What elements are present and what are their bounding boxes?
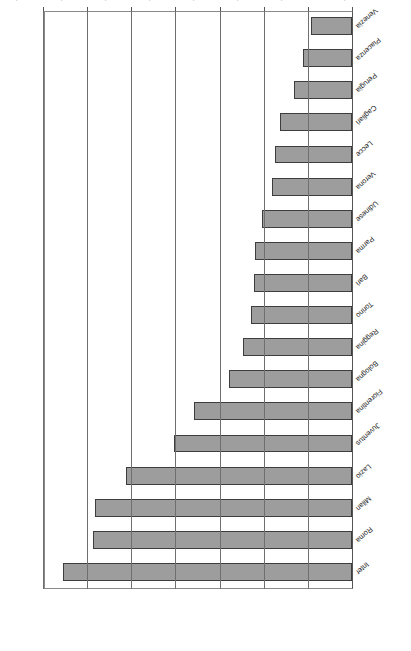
- gridline: [308, 11, 309, 589]
- value-tick-label: 50,000: [100, 0, 109, 1]
- value-tick-label: 10,000: [277, 0, 286, 1]
- value-tick-label: 40,000: [145, 0, 154, 1]
- bar-fill: [254, 274, 352, 292]
- value-tick: [308, 7, 309, 11]
- value-tick: [220, 7, 221, 11]
- bar-bologna: [229, 370, 352, 388]
- value-tick-label: 30,000: [189, 0, 198, 1]
- bars-layer: [45, 12, 352, 588]
- gridline: [264, 11, 265, 589]
- value-tick: [175, 7, 176, 11]
- bar-milan: [95, 499, 352, 517]
- bar-chart-figure: Italy 010,00020,00030,00040,00050,00060,…: [0, 0, 411, 651]
- value-tick: [264, 7, 265, 11]
- value-tick: [87, 7, 88, 11]
- gridline: [43, 11, 44, 589]
- value-tick: [43, 7, 44, 11]
- bar-cagliari: [280, 113, 352, 131]
- bar-torino: [251, 306, 352, 324]
- bar-perugia: [294, 81, 352, 99]
- bar-fill: [272, 178, 352, 196]
- bar-fill: [95, 499, 352, 517]
- value-tick: [131, 7, 132, 11]
- bar-fill: [280, 113, 352, 131]
- bar-lecce: [275, 146, 352, 164]
- bar-fill: [126, 467, 352, 485]
- bar-bari: [254, 274, 352, 292]
- gridline: [131, 11, 132, 589]
- bar-fill: [303, 49, 352, 67]
- bar-venezia: [311, 17, 352, 35]
- value-tick-label: 0: [341, 0, 350, 1]
- bar-fill: [194, 402, 352, 420]
- bar-parma: [255, 242, 352, 260]
- bar-fiorentina: [194, 402, 352, 420]
- value-tick-label: 60,000: [56, 0, 65, 1]
- bar-fill: [294, 81, 352, 99]
- value-tick: [352, 7, 353, 11]
- bar-reggina: [243, 338, 352, 356]
- bar-fill: [311, 17, 352, 35]
- value-tick-label: 20,000: [233, 0, 242, 1]
- value-tick-label: 70,000: [12, 0, 21, 1]
- gridline: [175, 11, 176, 589]
- chart-figure-rotator: Italy 010,00020,00030,00040,00050,00060,…: [0, 0, 411, 651]
- bar-fill: [255, 242, 352, 260]
- bar-fill: [229, 370, 352, 388]
- bar-fill: [243, 338, 352, 356]
- bar-fill: [275, 146, 352, 164]
- plot-area: [44, 11, 353, 589]
- gridline: [220, 11, 221, 589]
- bar-fill: [251, 306, 352, 324]
- bar-piacenza: [303, 49, 352, 67]
- gridline: [87, 11, 88, 589]
- bar-lazio: [126, 467, 352, 485]
- bar-verona: [272, 178, 352, 196]
